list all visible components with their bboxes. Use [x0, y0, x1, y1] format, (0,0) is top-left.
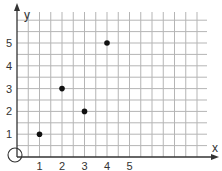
y-tick-label: 3: [6, 83, 12, 95]
grid-lines: [17, 12, 207, 157]
y-tick-label: 4: [6, 60, 12, 72]
tick-labels: 1234512345: [6, 37, 133, 171]
data-point: [82, 109, 88, 115]
x-tick-label: 5: [126, 160, 132, 171]
x-axis-label: x: [212, 141, 218, 155]
origin-circle-icon: [8, 148, 22, 162]
x-tick-label: 2: [59, 160, 65, 171]
x-tick-label: 3: [81, 160, 87, 171]
x-tick-label: 4: [104, 160, 110, 171]
y-tick-label: 2: [6, 105, 12, 117]
y-axis-label: y: [24, 8, 30, 22]
data-point: [37, 131, 43, 137]
data-point: [59, 86, 65, 92]
scatter-chart: xy 1234512345: [0, 0, 222, 171]
x-tick-label: 1: [36, 160, 42, 171]
data-point: [104, 40, 110, 46]
y-tick-label: 5: [6, 37, 12, 49]
y-tick-label: 1: [6, 128, 12, 140]
y-axis-arrow-icon: [14, 3, 20, 11]
